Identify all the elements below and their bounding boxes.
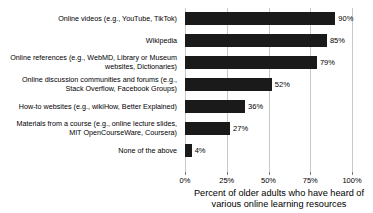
bar-value-label: 36%	[245, 100, 263, 113]
x-axis-title-line: Percent of older adults who have heard o…	[185, 188, 373, 199]
category-label-line: Wikipedia	[0, 37, 177, 46]
gridline-100pct	[352, 8, 353, 172]
bar-row: 79%	[185, 52, 352, 74]
bar	[185, 144, 192, 157]
category-label-line: Online videos (e.g., YouTube, TikTok)	[0, 15, 177, 24]
bar-row: 27%	[185, 118, 352, 140]
category-label-line: websites, Dictionaries)	[0, 63, 177, 72]
category-label-line: MIT OpenCourseWare, Coursera)	[0, 129, 177, 138]
bar-value-label: 27%	[230, 122, 248, 135]
x-tick-label: 25%	[219, 176, 234, 185]
bar	[185, 12, 335, 25]
bar-row: 52%	[185, 74, 352, 96]
x-tick-mark	[185, 172, 186, 175]
category-label: Wikipedia	[0, 30, 181, 52]
bar	[185, 122, 230, 135]
category-label: None of the above	[0, 140, 181, 162]
x-tick-label: 75%	[303, 176, 318, 185]
x-tick-mark	[310, 172, 311, 175]
x-tick-mark	[352, 172, 353, 175]
x-tick-label: 50%	[261, 176, 276, 185]
bar-row: 4%	[185, 140, 352, 162]
x-tick-label: 0%	[180, 176, 191, 185]
bar	[185, 34, 327, 47]
bar-value-label: 90%	[335, 12, 353, 25]
bar-row: 36%	[185, 96, 352, 118]
x-tick-mark	[269, 172, 270, 175]
plot-area: 90%85%79%52%36%27%4%	[185, 8, 352, 172]
category-label-line: How-to websites (e.g., wikiHow, Better E…	[0, 103, 177, 112]
bar-row: 90%	[185, 8, 352, 30]
category-axis-labels: Online videos (e.g., YouTube, TikTok)Wik…	[0, 8, 181, 172]
category-label: Online references (e.g., WebMD, Library …	[0, 52, 181, 74]
category-label: How-to websites (e.g., wikiHow, Better E…	[0, 96, 181, 118]
bar-chart-figure: Online videos (e.g., YouTube, TikTok)Wik…	[0, 0, 373, 213]
bar-row: 85%	[185, 30, 352, 52]
x-axis-title-line: various online learning resources	[185, 199, 373, 210]
bar	[185, 56, 317, 69]
bar	[185, 78, 272, 91]
x-tick-label: 100%	[342, 176, 361, 185]
category-label: Online videos (e.g., YouTube, TikTok)	[0, 8, 181, 30]
category-label: Online discussion communities and forums…	[0, 74, 181, 96]
category-label-line: Stack Overflow, Facebook Groups)	[0, 85, 177, 94]
x-tick-mark	[227, 172, 228, 175]
x-axis-title: Percent of older adults who have heard o…	[185, 188, 373, 210]
bar-value-label: 85%	[327, 34, 345, 47]
category-label-line: None of the above	[0, 147, 177, 156]
x-axis: 0%25%50%75%100%	[185, 172, 352, 186]
bar-value-label: 4%	[192, 144, 206, 157]
category-label: Materials from a course (e.g., online le…	[0, 118, 181, 140]
bar-value-label: 52%	[272, 78, 290, 91]
bar	[185, 100, 245, 113]
bar-value-label: 79%	[317, 56, 335, 69]
